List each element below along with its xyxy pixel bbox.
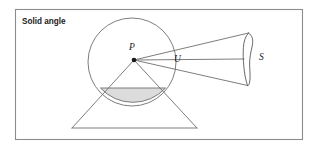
label-point-p: P	[128, 42, 135, 52]
apex-point-marker	[132, 58, 137, 63]
figure-title: Solid angle	[22, 17, 66, 26]
figure-frame	[16, 10, 303, 140]
solid-angle-figure: Solid angle P U S	[0, 0, 314, 148]
label-surface-s: S	[259, 52, 264, 62]
diagram-canvas: Solid angle P U S	[0, 0, 314, 148]
label-solid-angle-u: U	[174, 54, 182, 64]
